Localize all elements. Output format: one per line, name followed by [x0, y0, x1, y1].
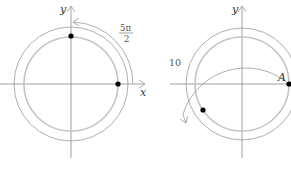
right-point-a-label: A: [277, 71, 286, 84]
right-end-point-dot: [200, 107, 205, 112]
left-angle-numerator: 5π: [120, 23, 131, 33]
left-unit-circle-diagram: y x 5π 2: [0, 3, 147, 158]
right-rotation-spiral-tail: [183, 114, 186, 123]
left-angle-denominator: 2: [124, 34, 129, 44]
right-angle-label: 10: [169, 57, 181, 68]
right-rotation-spiral: [183, 68, 289, 114]
left-end-point-dot: [68, 33, 73, 38]
left-y-label: y: [59, 3, 67, 16]
right-y-label: y: [231, 3, 239, 16]
left-start-point-dot: [115, 81, 120, 86]
right-unit-circle-diagram: y A 10: [169, 3, 291, 158]
left-x-label: x: [140, 86, 147, 99]
